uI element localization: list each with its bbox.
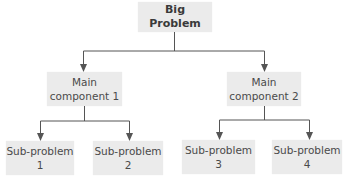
node-label-line1: Sub-problem (94, 144, 161, 158)
node-label-line2: 3 (215, 157, 222, 171)
node-label-line2: 2 (125, 158, 132, 172)
node-sub-problem-2: Sub-problem 2 (93, 141, 163, 175)
node-main-component-1: Main component 1 (47, 72, 122, 106)
node-sub-problem-1: Sub-problem 1 (6, 141, 74, 175)
node-label-line2: component 1 (50, 89, 119, 103)
node-label-line2: component 2 (229, 89, 298, 103)
node-label: Big Problem (138, 3, 212, 31)
node-label-line1: Main (251, 75, 276, 89)
node-label-line1: Sub-problem (273, 143, 340, 157)
node-sub-problem-3: Sub-problem 3 (182, 140, 255, 174)
node-sub-problem-4: Sub-problem 4 (272, 140, 342, 174)
node-label-line1: Sub-problem (185, 143, 252, 157)
node-big-problem: Big Problem (138, 2, 212, 32)
node-label-line1: Main (72, 75, 97, 89)
node-label-line2: 4 (304, 157, 311, 171)
node-label-line1: Sub-problem (6, 144, 73, 158)
problem-decomposition-diagram: Big Problem Main component 1 Main compon… (0, 0, 350, 183)
node-main-component-2: Main component 2 (227, 72, 301, 106)
node-label-line2: 1 (37, 158, 44, 172)
